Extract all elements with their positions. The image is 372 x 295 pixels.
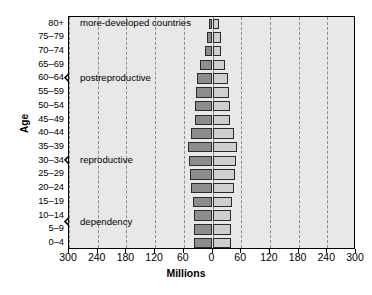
bar-female <box>213 224 231 234</box>
group-annotation-label: more-developed countries <box>80 17 191 28</box>
pyramid-row <box>69 140 354 154</box>
bar-female <box>213 128 234 138</box>
bar-male <box>194 210 212 220</box>
pyramid-row <box>69 236 354 249</box>
bar-male <box>189 156 213 166</box>
y-axis-tick-label: 15–19 <box>20 196 64 206</box>
plot-area <box>68 16 355 249</box>
y-axis-tick-label: 80+ <box>20 18 64 28</box>
bar-male <box>196 87 212 97</box>
y-axis-tick-label: 70–74 <box>20 45 64 55</box>
y-axis-tick-label: 40–44 <box>20 127 64 137</box>
bar-female <box>213 238 231 248</box>
y-axis-tick-label: 5–9 <box>20 223 64 233</box>
pyramid-row <box>69 127 354 141</box>
pyramid-row <box>69 58 354 72</box>
bar-female <box>213 87 229 97</box>
y-axis-tick-label: 20–24 <box>20 182 64 192</box>
pyramid-row <box>69 195 354 209</box>
bar-male <box>193 197 212 207</box>
bar-female <box>213 169 236 179</box>
population-pyramid-figure: Age 0–45–910–1415–1920–2425–2930–3435–39… <box>0 0 372 295</box>
y-axis-tick-label: 55–59 <box>20 86 64 96</box>
bar-female <box>213 115 230 125</box>
group-annotation-label: dependency <box>80 216 132 227</box>
y-axis-tick-label: 0–4 <box>20 237 64 247</box>
bar-male <box>195 101 212 111</box>
pyramid-row <box>69 181 354 195</box>
bar-female <box>213 210 231 220</box>
y-axis-tick-label: 60–64 <box>20 72 64 82</box>
y-axis-tick-label: 30–34 <box>20 155 64 165</box>
pyramid-row <box>69 99 354 113</box>
pyramid-row <box>69 113 354 127</box>
bar-female <box>213 142 238 152</box>
bar-female <box>213 46 222 56</box>
bar-female <box>213 32 222 42</box>
bar-male <box>190 169 213 179</box>
bar-female <box>213 19 220 29</box>
pyramid-row <box>69 44 354 58</box>
pyramid-row <box>69 86 354 100</box>
y-axis-tick-labels: 0–45–910–1415–1920–2425–2930–3435–3940–4… <box>16 16 64 249</box>
y-axis-tick-label: 50–54 <box>20 100 64 110</box>
bar-male <box>191 128 212 138</box>
bar-female <box>213 60 225 70</box>
bar-female <box>213 156 237 166</box>
x-axis-tick-label: 300 <box>335 251 372 263</box>
bar-male <box>205 46 213 56</box>
bar-male <box>194 224 212 234</box>
bar-male <box>200 60 212 70</box>
y-axis-tick-label: 65–69 <box>20 59 64 69</box>
bar-male <box>195 115 212 125</box>
bar-male <box>191 183 212 193</box>
bar-male <box>194 238 212 248</box>
group-annotation-label: reproductive <box>80 154 133 165</box>
y-axis-tick-label: 25–29 <box>20 168 64 178</box>
bar-male <box>197 73 212 83</box>
bar-female <box>213 197 232 207</box>
y-axis-tick-label: 10–14 <box>20 210 64 220</box>
pyramid-row <box>69 31 354 45</box>
group-annotation-label: postreproductive <box>80 72 151 83</box>
bar-male <box>188 142 213 152</box>
x-axis-title: Millions <box>0 267 372 279</box>
y-axis-tick-label: 35–39 <box>20 141 64 151</box>
y-axis-tick-label: 45–49 <box>20 114 64 124</box>
bar-female <box>213 73 228 83</box>
bar-female <box>213 101 230 111</box>
pyramid-row <box>69 168 354 182</box>
y-axis-tick-label: 75–79 <box>20 31 64 41</box>
bar-female <box>213 183 234 193</box>
x-axis-tick-labels: 30024018012060060120180240300 <box>68 251 355 265</box>
